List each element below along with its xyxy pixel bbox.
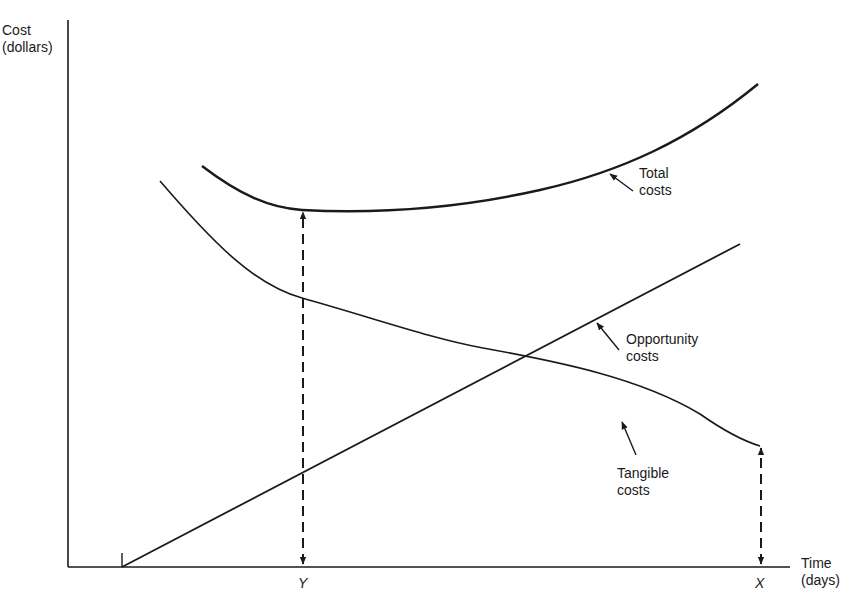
- opportunity-costs-line: [122, 244, 740, 567]
- total-costs-label-line2: costs: [639, 182, 672, 199]
- y-axis-label: Cost (dollars): [2, 22, 53, 56]
- x-axis-label-line2: (days): [801, 572, 840, 589]
- opportunity-costs-label: Opportunity costs: [626, 331, 698, 365]
- total-costs-curve: [202, 84, 758, 211]
- cost-chart: [0, 0, 868, 602]
- tangible-costs-pointer-arrow: [622, 422, 636, 455]
- opportunity-costs-pointer-arrow: [597, 323, 619, 350]
- x-axis-label: Time (days): [801, 555, 840, 589]
- x-axis-label-line1: Time: [801, 555, 840, 572]
- opportunity-costs-label-line1: Opportunity: [626, 331, 698, 348]
- tangible-costs-curve: [160, 181, 760, 446]
- opportunity-costs-label-line2: costs: [626, 348, 698, 365]
- total-costs-label: Total costs: [639, 165, 672, 199]
- tangible-costs-label: Tangible costs: [617, 465, 669, 499]
- y-axis-label-line1: Cost: [2, 22, 53, 39]
- tangible-costs-label-line2: costs: [617, 482, 669, 499]
- total-costs-pointer-arrow: [610, 174, 633, 191]
- tick-label-x: X: [755, 575, 764, 592]
- total-costs-label-line1: Total: [639, 165, 672, 182]
- y-axis-label-line2: (dollars): [2, 39, 53, 56]
- tick-label-y: Y: [298, 575, 307, 592]
- tangible-costs-label-line1: Tangible: [617, 465, 669, 482]
